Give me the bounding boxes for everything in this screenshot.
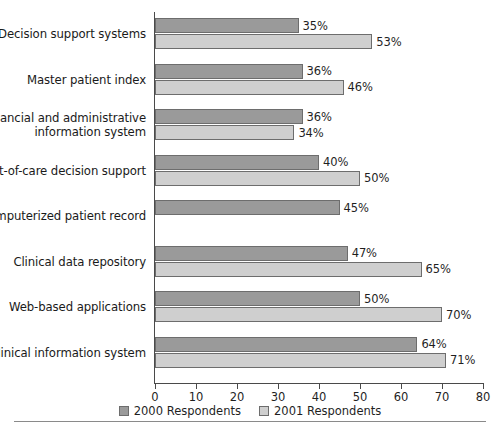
- bar-value-label: 46%: [348, 80, 373, 94]
- x-tick-mark: [196, 384, 197, 389]
- bar-group: 40%50%: [155, 155, 483, 201]
- category-label-line: Web-based applications: [0, 300, 146, 314]
- bar-group: 45%: [155, 200, 483, 246]
- bar-value-label: 35%: [303, 19, 328, 33]
- bar-value-label: 65%: [426, 262, 451, 276]
- bar-track: 65%: [155, 262, 483, 277]
- bar-2001[interactable]: [155, 34, 372, 49]
- bar-2000[interactable]: [155, 291, 360, 306]
- bar-track: 40%: [155, 155, 483, 170]
- x-tick-mark: [401, 384, 402, 389]
- bar-2001[interactable]: [155, 171, 360, 186]
- bar-value-label: 53%: [376, 35, 401, 49]
- bar-2001[interactable]: [155, 80, 344, 95]
- category-label-line: Point-of-care decision support: [0, 164, 146, 178]
- bar-chart-figure: Decision support systemsMaster patient i…: [0, 0, 500, 430]
- bar-track: 46%: [155, 80, 483, 95]
- bar-2000[interactable]: [155, 246, 348, 261]
- category-label: Decision support systems: [0, 27, 146, 41]
- bar-group: 50%70%: [155, 291, 483, 337]
- bar-track: 70%: [155, 307, 483, 322]
- bar-value-label: 71%: [450, 353, 475, 367]
- bottom-divider: [14, 421, 486, 422]
- bar-value-label: 36%: [307, 64, 332, 78]
- legend-swatch-icon: [259, 406, 269, 416]
- x-tick-label: 50: [353, 390, 368, 404]
- bar-value-label: 50%: [364, 171, 389, 185]
- bar-2001[interactable]: [155, 125, 294, 140]
- bar-group: 47%65%: [155, 246, 483, 292]
- bar-track: [155, 216, 483, 231]
- category-label-line: Clinical data repository: [0, 255, 146, 269]
- bar-group: 36%46%: [155, 64, 483, 110]
- category-label: Computerized patient record: [0, 209, 146, 223]
- legend-swatch-icon: [119, 406, 129, 416]
- bar-value-label: 64%: [421, 337, 446, 351]
- x-tick-label: 60: [394, 390, 409, 404]
- bar-track: 47%: [155, 246, 483, 261]
- bar-track: 53%: [155, 34, 483, 49]
- x-tick-mark: [442, 384, 443, 389]
- category-label-line: information system: [0, 125, 146, 139]
- x-tick-mark: [360, 384, 361, 389]
- bar-2001[interactable]: [155, 307, 442, 322]
- x-tick-label: 80: [476, 390, 491, 404]
- chart-legend: 2000 Respondents2001 Respondents: [0, 404, 500, 418]
- bar-track: 36%: [155, 109, 483, 124]
- bar-track: 50%: [155, 291, 483, 306]
- x-tick-label: 30: [271, 390, 286, 404]
- bar-2000[interactable]: [155, 337, 417, 352]
- bar-2000[interactable]: [155, 64, 303, 79]
- category-label: Web-based applications: [0, 300, 146, 314]
- x-tick-mark: [237, 384, 238, 389]
- x-tick-mark: [155, 384, 156, 389]
- bar-group: 35%53%: [155, 18, 483, 64]
- bar-track: 34%: [155, 125, 483, 140]
- category-label: Point-of-care decision support: [0, 164, 146, 178]
- bar-group: 36%34%: [155, 109, 483, 155]
- bar-track: 50%: [155, 171, 483, 186]
- category-label-line: Decision support systems: [0, 27, 146, 41]
- legend-item[interactable]: 2000 Respondents: [119, 404, 241, 418]
- bar-2000[interactable]: [155, 155, 319, 170]
- bar-value-label: 70%: [446, 308, 471, 322]
- category-label-line: Master patient index: [0, 73, 146, 87]
- category-label: Clinical data repository: [0, 255, 146, 269]
- category-label-line: Financial and administrative: [0, 111, 146, 125]
- x-tick-label: 10: [189, 390, 204, 404]
- x-tick-label: 70: [435, 390, 450, 404]
- legend-label: 2000 Respondents: [134, 404, 241, 418]
- bar-track: 64%: [155, 337, 483, 352]
- x-tick-label: 40: [312, 390, 327, 404]
- bar-2001[interactable]: [155, 353, 446, 368]
- bar-2001[interactable]: [155, 262, 422, 277]
- category-label-line: Clinical information system: [0, 346, 146, 360]
- x-tick-mark: [319, 384, 320, 389]
- x-tick-label: 20: [230, 390, 245, 404]
- bar-track: 45%: [155, 200, 483, 215]
- x-tick-mark: [278, 384, 279, 389]
- category-label-line: Computerized patient record: [0, 209, 146, 223]
- bar-value-label: 36%: [307, 110, 332, 124]
- category-label: Financial and administrativeinformation …: [0, 111, 146, 139]
- x-tick-label: 0: [151, 390, 158, 404]
- bar-value-label: 45%: [344, 201, 369, 215]
- bar-value-label: 34%: [298, 126, 323, 140]
- category-label: Master patient index: [0, 73, 146, 87]
- legend-item[interactable]: 2001 Respondents: [259, 404, 381, 418]
- plot-area: 35%53%36%46%36%34%40%50%45%47%65%50%70%6…: [155, 12, 483, 383]
- bar-2000[interactable]: [155, 109, 303, 124]
- bar-2000[interactable]: [155, 18, 299, 33]
- legend-label: 2001 Respondents: [274, 404, 381, 418]
- x-tick-mark: [483, 384, 484, 389]
- bar-track: 35%: [155, 18, 483, 33]
- category-label: Clinical information system: [0, 346, 146, 360]
- bar-track: 36%: [155, 64, 483, 79]
- bar-value-label: 50%: [364, 292, 389, 306]
- bar-group: 64%71%: [155, 337, 483, 383]
- bar-2000[interactable]: [155, 200, 340, 215]
- bar-track: 71%: [155, 353, 483, 368]
- bar-value-label: 40%: [323, 155, 348, 169]
- bar-value-label: 47%: [352, 246, 377, 260]
